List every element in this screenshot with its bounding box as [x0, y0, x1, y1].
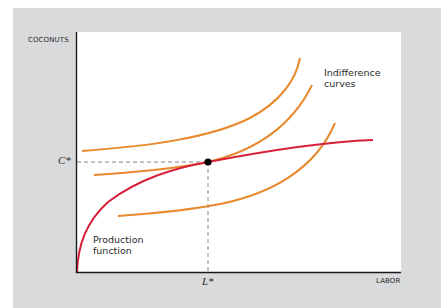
indifference-curves-label: Indifference curves: [324, 67, 381, 89]
x-axis-label: LABOR: [376, 277, 400, 285]
y-axis-label: COCONUTS: [28, 36, 69, 44]
production-label-line2: function: [93, 245, 144, 256]
optimum-point: [204, 158, 211, 165]
c-star-label: C*: [58, 154, 71, 166]
indifference-label-line2: curves: [324, 78, 381, 89]
production-function-label: Production function: [93, 234, 144, 256]
l-star-label: L*: [202, 275, 214, 287]
production-label-line1: Production: [93, 234, 144, 245]
indifference-curve-tangent: [94, 85, 312, 175]
indifference-label-line1: Indifference: [324, 67, 381, 78]
